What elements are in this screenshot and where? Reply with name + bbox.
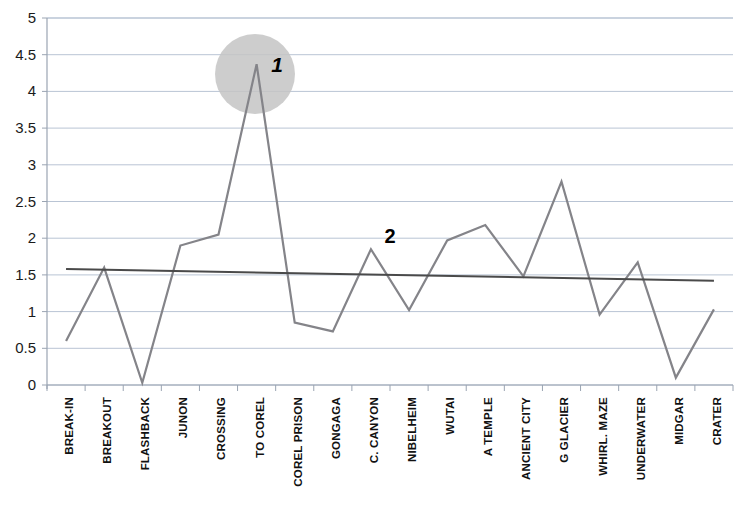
x-tick-marks-group bbox=[42, 18, 733, 391]
x-category-label: BREAK-IN bbox=[63, 397, 75, 455]
data-line-path bbox=[66, 64, 714, 383]
chart-container: 00.511.522.533.544.55 12 BREAK-INBREAKOU… bbox=[0, 0, 745, 507]
x-category-label: WHIRL. MAZE bbox=[597, 397, 609, 476]
x-category-label: A TEMPLE bbox=[482, 397, 494, 456]
annotation-number-1: 1 bbox=[271, 53, 283, 76]
x-category-label: UNDERWATER bbox=[635, 397, 647, 481]
data-series-line bbox=[66, 64, 714, 383]
x-category-label: TO COREL bbox=[254, 397, 266, 458]
y-tick-label: 1 bbox=[28, 303, 36, 320]
x-category-label: JUNON bbox=[177, 397, 189, 438]
y-tick-label: 2.5 bbox=[15, 193, 36, 210]
y-tick-label: 4.5 bbox=[15, 46, 36, 63]
x-category-label: FLASHBACK bbox=[139, 397, 151, 471]
annotation-number-2: 2 bbox=[384, 225, 395, 247]
gridlines-group bbox=[47, 18, 733, 385]
y-tick-label: 1.5 bbox=[15, 266, 36, 283]
x-category-label: ANCIENT CITY bbox=[520, 397, 532, 480]
x-category-label: COREL PRISON bbox=[292, 397, 304, 487]
y-tick-label: 0 bbox=[28, 376, 36, 393]
x-category-label: NIBELHEIM bbox=[406, 397, 418, 462]
y-tick-label: 0.5 bbox=[15, 339, 36, 356]
line-chart: 00.511.522.533.544.55 12 BREAK-INBREAKOU… bbox=[0, 0, 745, 507]
x-category-label: GONGAGA bbox=[330, 397, 342, 459]
x-category-label: BREAKOUT bbox=[101, 397, 113, 464]
x-category-label: CROSSING bbox=[215, 397, 227, 460]
y-tick-label: 5 bbox=[28, 9, 36, 26]
x-category-label: CRATER bbox=[711, 397, 723, 446]
x-category-label: WUTAI bbox=[444, 397, 456, 435]
x-category-label: G GLACIER bbox=[558, 397, 570, 463]
y-tick-labels-group: 00.511.522.533.544.55 bbox=[15, 9, 36, 393]
x-category-labels-group: BREAK-INBREAKOUTFLASHBACKJUNONCROSSINGTO… bbox=[63, 397, 723, 487]
y-tick-label: 3 bbox=[28, 156, 36, 173]
x-category-label: C. CANYON bbox=[368, 397, 380, 463]
y-tick-label: 4 bbox=[28, 82, 36, 99]
x-category-label: MIDGAR bbox=[673, 397, 685, 445]
y-tick-label: 2 bbox=[28, 229, 36, 246]
y-tick-label: 3.5 bbox=[15, 119, 36, 136]
